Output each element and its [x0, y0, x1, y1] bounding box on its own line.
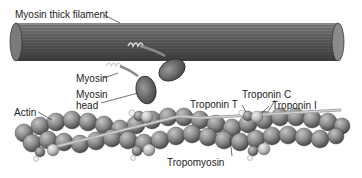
myosin-thick-filament	[10, 23, 344, 61]
label-troponin-i: Troponin I	[272, 100, 317, 111]
label-myosin: Myosin	[76, 73, 108, 84]
label-troponin-c: Troponin C	[242, 89, 291, 100]
label-myosin-thick-filament: Myosin thick filament	[15, 9, 108, 20]
label-myosin-head-line1: Myosin	[76, 89, 108, 100]
label-myosin-head-line2: head	[76, 100, 98, 111]
label-actin: Actin	[14, 107, 36, 118]
label-troponin-t: Troponin T	[190, 99, 238, 110]
diagram-canvas: Myosin thick filament Myosin Myosin head…	[0, 0, 362, 178]
label-tropomyosin: Tropomyosin	[167, 157, 224, 168]
diagram-graphic	[0, 0, 362, 178]
